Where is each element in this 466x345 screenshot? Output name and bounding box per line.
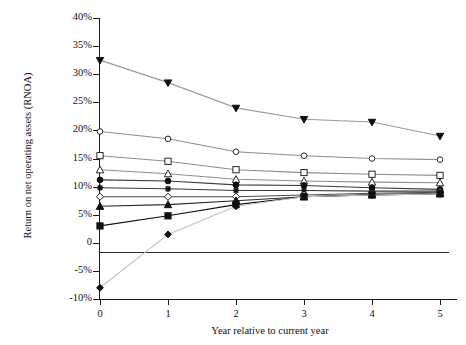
data-point-open-square [165,158,171,164]
data-point-filled-circle [97,177,103,183]
data-point-cross [97,185,103,191]
data-point-open-square [233,167,239,173]
data-point-open-circle [301,153,307,159]
series-portfolio-4 [96,166,443,186]
data-point-open-diamond [96,193,103,200]
series-line [100,132,440,160]
data-point-filled-square [165,213,171,219]
data-point-filled-down-triangle [436,133,443,140]
data-point-open-circle [437,157,443,163]
series-portfolio-1-highest [96,57,443,139]
data-point-open-diamond [164,193,171,200]
data-point-filled-square [97,223,103,229]
data-point-open-square [301,169,307,175]
data-point-open-circle [97,129,103,135]
data-point-filled-circle [165,178,171,184]
chart-figure: 40%35%30%25%20%15%10%5%0-5%-10% 012345 Y… [0,0,466,345]
x-axis-title: Year relative to current year [150,325,390,336]
series-portfolio-3 [97,153,443,179]
series-layer [0,0,466,345]
y-axis-title: Return on net operating assets (RNOA) [22,56,33,256]
data-point-filled-circle [233,182,239,188]
data-point-open-square [97,153,103,159]
series-portfolio-2 [97,129,443,163]
series-line [100,194,440,288]
data-point-open-square [369,171,375,177]
data-point-open-square [437,172,443,178]
data-point-cross [165,186,171,192]
plot-area: 40%35%30%25%20%15%10%5%0-5%-10% 012345 Y… [0,0,466,345]
series-line [100,60,440,136]
data-point-open-circle [165,136,171,142]
data-point-open-circle [233,149,239,155]
data-point-open-circle [369,156,375,162]
